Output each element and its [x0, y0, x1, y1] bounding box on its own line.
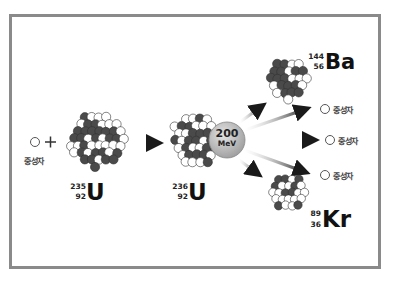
uranium235-atomic-number: 92: [70, 193, 86, 201]
reactant-neutron-label: 중성자: [24, 155, 44, 166]
plus-icon: [45, 137, 56, 148]
barium-atomic-number: 56: [308, 63, 324, 71]
krypton-atomic-number: 36: [305, 221, 321, 229]
krypton-label: 89 36 Kr: [305, 208, 365, 234]
product-neutron-icons: [321, 105, 335, 180]
reactant-neutron-icon: [31, 138, 40, 147]
krypton-symbol: Kr: [322, 208, 351, 231]
barium-label: 144 56 Ba: [308, 52, 368, 76]
energy-unit: MeV: [209, 140, 245, 148]
uranium236-atomic-number: 92: [172, 193, 188, 201]
product-neutron-label-1: 중성자: [333, 104, 353, 115]
product-neutron-label-2: 중성자: [338, 135, 358, 146]
fission-diagram-graphic: [0, 0, 393, 281]
uranium235-mass: 235: [70, 183, 86, 191]
uranium236-label: 236 92 U: [172, 181, 222, 211]
krypton-nucleus-icon: [269, 175, 309, 210]
krypton-mass: 89: [305, 210, 321, 218]
uranium236-symbol: U: [188, 181, 207, 204]
barium-mass: 144: [308, 53, 324, 61]
energy-value: 200: [209, 128, 245, 139]
product-neutron-label-3: 중성자: [333, 170, 353, 181]
barium-nucleus-icon: [266, 59, 311, 104]
uranium235-nucleus-icon: [67, 112, 129, 171]
uranium236-mass: 236: [172, 183, 188, 191]
uranium235-symbol: U: [86, 181, 105, 204]
barium-symbol: Ba: [325, 52, 355, 73]
energy-label: 200 MeV: [209, 128, 245, 148]
uranium235-label: 235 92 U: [70, 181, 120, 211]
fission-arrows-icon: [239, 106, 314, 174]
